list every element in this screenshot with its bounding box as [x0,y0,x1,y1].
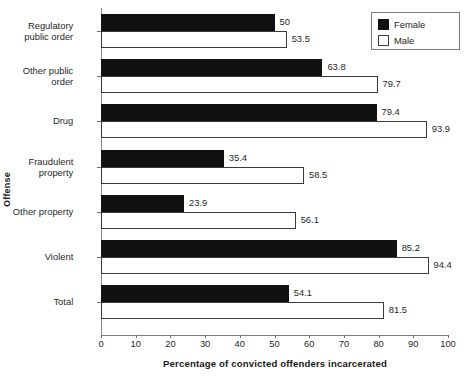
bar-male [101,212,296,229]
bar-male [101,121,427,138]
category-label: Drug [0,115,73,126]
legend-swatch-female-icon [378,19,389,30]
bar-value-label: 81.5 [389,304,407,316]
legend-label-female: Female [394,19,425,30]
category-label-line: property [0,167,73,178]
bar-value-label: 58.5 [309,169,327,181]
x-axis-tick-label: 10 [130,338,140,349]
bar-group: Drug79.493.9 [101,104,448,138]
x-axis-tick-label: 100 [440,338,456,349]
bar-female [101,104,377,121]
bar-male [101,31,287,48]
bar-female [101,285,289,302]
bar-male [101,257,429,274]
legend-item-female: Female [378,17,459,31]
bar-group: Other property23.956.1 [101,195,448,229]
x-axis-tick-label: 40 [235,338,245,349]
category-label: Other property [0,206,73,217]
category-label-line: order [0,76,73,87]
x-axis-title: Percentage of convicted offenders incarc… [101,358,449,369]
category-label-line: Total [0,296,73,307]
bar-group: Other publicorder63.879.7 [101,59,448,93]
bar-group: Violent85.294.4 [101,240,448,274]
x-axis-tick-label: 20 [165,338,175,349]
legend-swatch-male-icon [378,35,389,46]
bar-male [101,302,384,319]
bar-group: Fraudulentproperty35.458.5 [101,150,448,184]
legend-label-male: Male [394,35,414,46]
category-label-line: Fraudulent [0,156,73,167]
plot-area: Regulatorypublic order5053.5Other public… [101,8,448,335]
bar-value-label: 56.1 [301,214,319,226]
bar-value-label: 93.9 [432,123,450,135]
bar-male [101,167,304,184]
bar-value-label: 79.7 [383,78,401,90]
x-axis-tick-label: 80 [373,338,383,349]
category-label: Regulatorypublic order [0,20,73,42]
bar-female [101,195,184,212]
category-label: Total [0,296,73,307]
bar-female [101,14,275,31]
bar-group: Total54.181.5 [101,285,448,319]
x-axis-tick-label: 90 [408,338,418,349]
bar-value-label: 94.4 [434,259,452,271]
bar-value-label: 35.4 [229,152,247,164]
bar-value-label: 50 [280,16,290,28]
x-axis-ticks: 0102030405060708090100 [101,335,449,351]
category-label: Other publicorder [0,65,73,87]
bar-male [101,76,378,93]
x-axis-tick-label: 30 [200,338,210,349]
category-label: Violent [0,251,73,262]
category-label-line: Drug [0,115,73,126]
category-label-line: Regulatory [0,20,73,31]
chart-legend: Female Male [371,12,460,50]
x-axis-tick-label: 50 [269,338,279,349]
bar-female [101,240,397,257]
x-axis-tick-label: 70 [339,338,349,349]
bar-value-label: 63.8 [327,61,345,73]
category-label-line: Violent [0,251,73,262]
bar-female [101,150,224,167]
x-axis-tick-label: 60 [304,338,314,349]
category-label: Fraudulentproperty [0,156,73,178]
horizontal-bar-chart: Offense Regulatorypublic order5053.5Othe… [0,0,474,376]
bar-female [101,59,322,76]
bar-value-label: 23.9 [189,197,207,209]
bar-value-label: 85.2 [402,242,420,254]
bar-value-label: 79.4 [382,106,400,118]
bar-value-label: 54.1 [294,287,312,299]
category-label-line: Other property [0,206,73,217]
bar-value-label: 53.5 [292,33,310,45]
legend-item-male: Male [378,33,459,47]
category-label-line: public order [0,31,73,42]
category-label-line: Other public [0,65,73,76]
x-axis-tick-label: 0 [98,338,103,349]
